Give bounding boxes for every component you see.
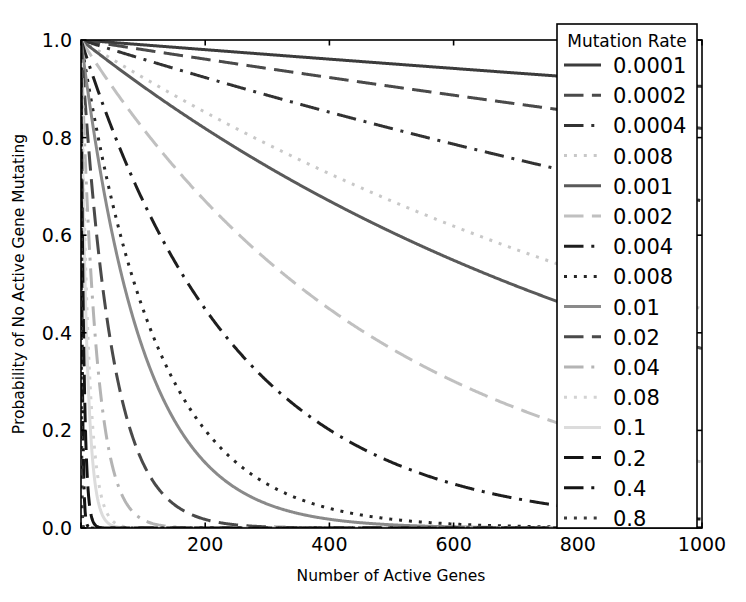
legend-item-label: 0.002 xyxy=(613,205,673,229)
y-tick-label: 0.4 xyxy=(42,322,72,344)
x-tick-label: 600 xyxy=(435,533,471,555)
legend-item-label: 0.2 xyxy=(613,447,646,471)
chart-figure: 20040060080010000.00.20.40.60.81.0 Mutat… xyxy=(0,0,746,602)
legend-item-label: 0.8 xyxy=(613,507,646,531)
x-tick-label: 1000 xyxy=(678,533,726,555)
legend-item-label: 0.1 xyxy=(613,416,646,440)
legend-item-label: 0.008 xyxy=(613,265,673,289)
y-tick-label: 0.0 xyxy=(42,517,72,539)
x-axis-title: Number of Active Genes xyxy=(297,567,486,585)
legend-item-label: 0.008 xyxy=(613,145,673,169)
chart-canvas: 20040060080010000.00.20.40.60.81.0 Mutat… xyxy=(0,0,746,602)
legend-item-label: 0.01 xyxy=(613,296,660,320)
legend-item-label: 0.4 xyxy=(613,477,646,501)
legend-item-label: 0.08 xyxy=(613,386,660,410)
y-axis-title: Probability of No Active Gene Mutating xyxy=(10,134,28,434)
x-tick-label: 400 xyxy=(311,533,347,555)
y-tick-label: 0.6 xyxy=(42,224,72,246)
legend-box: Mutation Rate0.00010.00020.00040.0080.00… xyxy=(557,24,697,531)
legend-item-label: 0.0002 xyxy=(613,84,686,108)
legend-item-label: 0.02 xyxy=(613,326,660,350)
x-tick-label: 200 xyxy=(187,533,223,555)
x-tick-label: 800 xyxy=(560,533,596,555)
legend-item-label: 0.0004 xyxy=(613,114,686,138)
legend-item-label: 0.001 xyxy=(613,175,673,199)
y-tick-label: 1.0 xyxy=(42,29,72,51)
y-tick-label: 0.8 xyxy=(42,127,72,149)
legend-item-label: 0.0001 xyxy=(613,54,686,78)
legend-item-label: 0.004 xyxy=(613,235,673,259)
legend-item-label: 0.04 xyxy=(613,356,660,380)
legend-title: Mutation Rate xyxy=(567,31,686,51)
y-tick-label: 0.2 xyxy=(42,419,72,441)
